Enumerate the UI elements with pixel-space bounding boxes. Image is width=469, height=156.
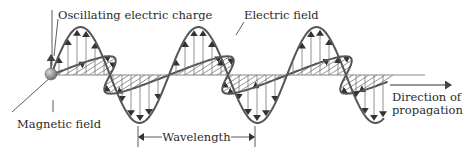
label-wavelength: Wavelength (162, 130, 231, 144)
label-oscillating-charge: Oscillating electric charge (58, 8, 213, 22)
electric-pointer-line (236, 22, 244, 35)
label-magnetic-field: Magnetic field (17, 117, 102, 131)
label-direction-line2: propagation (392, 103, 463, 117)
magnetic-vector (193, 57, 221, 75)
label-electric-field: Electric field (244, 8, 319, 22)
perspective-axis-line (12, 76, 52, 112)
label-direction-line1: Direction of (392, 90, 462, 104)
em-wave-diagram: Oscillating electric charge Electric fie… (0, 0, 469, 156)
charge-pointer-line-2 (54, 19, 58, 56)
charge-ball-icon (45, 68, 57, 80)
magnetic-vector (238, 75, 265, 92)
